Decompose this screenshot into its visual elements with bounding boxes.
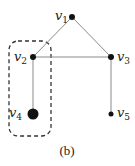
label-v3: v3: [117, 49, 130, 66]
label-v5: v5: [117, 105, 130, 122]
node-v5: [109, 112, 114, 117]
node-v2: [30, 54, 36, 60]
node-v3: [108, 54, 114, 60]
node-v4: [28, 109, 39, 120]
edge-v1-v3: [72, 17, 111, 57]
label-v4: v4: [9, 105, 22, 122]
label-v2: v2: [14, 49, 27, 66]
label-v1: v1: [55, 8, 68, 25]
figure-caption: (b): [59, 143, 74, 158]
node-v1: [69, 14, 75, 20]
graph-diagram: v1 v2 v3 v4 v5 (b): [0, 0, 135, 166]
